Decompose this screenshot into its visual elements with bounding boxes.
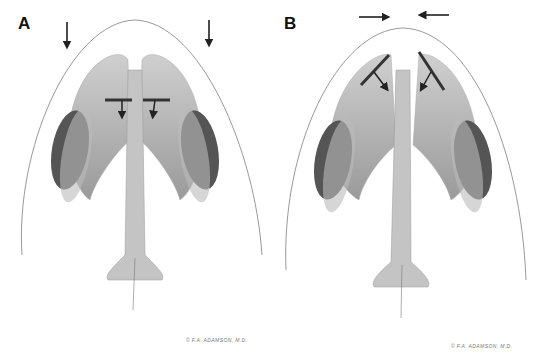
credit-b: © F.A. ADAMSON, M.D.: [451, 343, 512, 349]
credit-a: © F.A. ADAMSON, M.D.: [186, 337, 247, 343]
figure: A: [0, 0, 541, 358]
nasal-illustration-b: [271, 0, 541, 358]
nasal-illustration-a: [0, 0, 270, 358]
panel-b: B: [271, 0, 541, 358]
arrow-converging-icon: [359, 15, 449, 17]
panel-a: A: [0, 0, 270, 358]
